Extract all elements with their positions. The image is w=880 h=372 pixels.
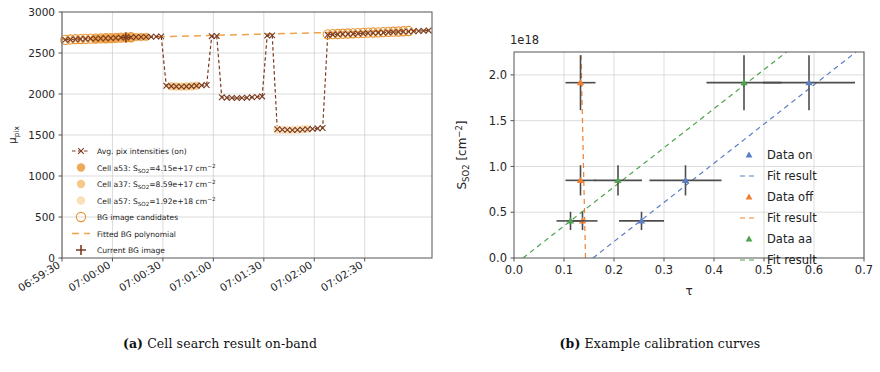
y-axis-title: μpix [6, 125, 21, 144]
legend-marker-dot [77, 163, 85, 171]
y-axis-title-sub: pix [12, 125, 21, 137]
y-axis-title-sup: −2 [454, 125, 464, 138]
y-tick-label: 2000 [28, 88, 55, 100]
y-axis-title-suffix: [cm [455, 138, 469, 165]
legend-label: Avg. pix intensities (on) [97, 147, 187, 156]
x-tick-label: 06:59:30 [16, 259, 62, 294]
legend-label: BG image candidates [97, 213, 178, 222]
legend-label: Fit result [767, 169, 817, 183]
legend-label-sup: −2 [207, 179, 215, 185]
y-axis-title: SSO2 [cm−2] [454, 120, 471, 189]
cell-search-svg: 05001000150020002500300006:59:3007:00:00… [0, 0, 440, 322]
figure-container: 05001000150020002500300006:59:3007:00:00… [0, 0, 880, 372]
y-tick-label: 0.5 [489, 205, 507, 219]
x-tick-label: 07:02:00 [268, 259, 314, 294]
x-tick-label: 0.3 [655, 263, 673, 277]
x-tick-label: 0.0 [505, 263, 523, 277]
y-axis-offset-label: 1e18 [510, 33, 539, 47]
calibration-curves-plot: 0.00.51.01.52.00.00.10.20.30.40.50.60.71… [440, 0, 880, 322]
legend-label: Data on [767, 148, 812, 162]
y-tick-label: 2500 [28, 47, 55, 59]
y-tick-label: 3000 [28, 6, 55, 18]
legend-label-sub: SO2 [138, 201, 150, 207]
x-tick-label: 0.4 [705, 263, 723, 277]
cell-search-plot: 05001000150020002500300006:59:3007:00:00… [0, 0, 440, 322]
legend-marker-dot [77, 180, 85, 188]
y-axis-title-end: ] [455, 120, 469, 125]
legend-label-mid: =4.15e+17 cm [149, 164, 207, 173]
caption-a-tag: (a) [123, 336, 143, 351]
caption-b: (b) Example calibration curves [560, 322, 761, 372]
x-tick-label: 0.7 [855, 263, 873, 277]
legend-label: Cell a53: SSO2=4.15e+17 cm−2 [97, 163, 215, 174]
x-tick-label: 0.1 [555, 263, 573, 277]
y-tick-label: 2.0 [489, 68, 507, 82]
y-tick-label: 500 [35, 211, 55, 223]
legend-label-sup: −2 [207, 196, 215, 202]
y-tick-label: 1.0 [489, 160, 507, 174]
x-tick-label: 07:01:00 [167, 259, 213, 294]
legend-label-sub: SO2 [138, 168, 150, 174]
x-tick-label: 0.2 [605, 263, 623, 277]
panel-a: 05001000150020002500300006:59:3007:00:00… [0, 0, 440, 372]
legend-label: Fitted BG polynomial [97, 230, 176, 239]
caption-b-tag: (b) [560, 336, 581, 351]
x-tick-label: 07:01:30 [218, 259, 264, 294]
y-axis-title-sub: SO2 [461, 164, 471, 182]
legend-label: Fit result [767, 211, 817, 225]
x-tick-label: 07:02:30 [318, 259, 364, 294]
panel-b: 0.00.51.01.52.00.00.10.20.30.40.50.60.71… [440, 0, 880, 372]
caption-b-text: Example calibration curves [585, 336, 761, 351]
legend-label: Fit result [767, 253, 817, 267]
legend-marker-dot [77, 196, 85, 204]
x-tick-label: 07:00:30 [117, 259, 163, 294]
y-tick-label: 1000 [28, 170, 55, 182]
legend-label-sup: −2 [207, 163, 215, 169]
legend-label-sub: SO2 [138, 184, 150, 190]
legend-label: Cell a37: SSO2=8.59e+17 cm−2 [97, 179, 215, 190]
calibration-curves-svg: 0.00.51.01.52.00.00.10.20.30.40.50.60.71… [440, 0, 880, 322]
legend-label-mid: =8.59e+17 cm [149, 180, 207, 189]
caption-a-text: Cell search result on-band [147, 336, 317, 351]
y-tick-label: 1500 [28, 129, 55, 141]
legend-label: Cell a57: SSO2=1.92e+18 cm−2 [97, 196, 215, 207]
caption-a: (a) Cell search result on-band [123, 322, 317, 372]
legend-label: Data aa [767, 232, 812, 246]
x-axis-title: τ [685, 284, 692, 298]
legend-label: Current BG image [97, 246, 165, 255]
legend-label-mid: =1.92e+18 cm [149, 197, 207, 206]
legend-label: Data off [767, 190, 814, 204]
x-tick-label: 07:00:00 [66, 259, 112, 294]
y-tick-label: 1.5 [489, 114, 507, 128]
